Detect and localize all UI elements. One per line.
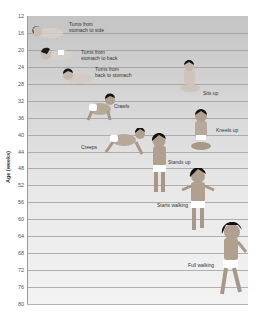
y-tick-label: 76 xyxy=(4,284,24,290)
y-tick-label: 32 xyxy=(4,98,24,104)
label-full-walking: Full walking xyxy=(188,263,214,269)
y-tick-label: 36 xyxy=(4,115,24,121)
label-turns-stomach-to-side: Turns from stomach to side xyxy=(69,22,104,33)
label-creeps: Creeps xyxy=(81,145,97,151)
baby-kneels-up-figure xyxy=(188,108,216,152)
y-tick-label: 56 xyxy=(4,199,24,205)
baby-sits-up-figure xyxy=(177,58,203,94)
baby-full-walking-figure xyxy=(216,222,248,298)
gridline xyxy=(27,270,248,271)
gridline xyxy=(27,236,248,237)
y-tick-label: 60 xyxy=(4,216,24,222)
label-turns-back-to-stomach: Turns from back to stomach xyxy=(95,67,131,78)
gridline xyxy=(27,287,248,288)
label-starts-walking: Starts walking xyxy=(157,203,188,209)
baby-turns-stomach-figure xyxy=(60,66,94,86)
label-sits-up: Sits up xyxy=(203,91,218,97)
y-tick-label: 64 xyxy=(4,233,24,239)
y-tick-label: 20 xyxy=(4,47,24,53)
baby-creeps-figure xyxy=(100,128,150,158)
gridline xyxy=(27,101,248,102)
motor-milestones-chart: 121620242832364044485256606468727680 Age… xyxy=(0,0,263,317)
label-stands-up: Stands up xyxy=(168,160,191,166)
gridline xyxy=(27,304,248,305)
y-tick-label: 80 xyxy=(4,301,24,307)
label-turns-stomach-to-back: Turns from stomach to back xyxy=(81,50,117,61)
y-tick-label: 16 xyxy=(4,30,24,36)
y-tick-label: 24 xyxy=(4,64,24,70)
baby-turns-side-figure xyxy=(30,24,64,40)
label-kneels-up: Kneels up xyxy=(216,128,238,134)
y-tick-label: 28 xyxy=(4,81,24,87)
gridline xyxy=(27,253,248,254)
y-tick-label: 68 xyxy=(4,250,24,256)
y-tick-label: 12 xyxy=(4,13,24,19)
y-tick-label: 40 xyxy=(4,132,24,138)
y-axis-line xyxy=(27,16,28,304)
y-tick-label: 72 xyxy=(4,267,24,273)
baby-turns-back-figure xyxy=(38,44,74,62)
label-crawls: Crawls xyxy=(114,104,129,110)
y-axis-title: Age (weeks) xyxy=(5,151,11,183)
baby-starts-walking-figure xyxy=(180,168,216,232)
